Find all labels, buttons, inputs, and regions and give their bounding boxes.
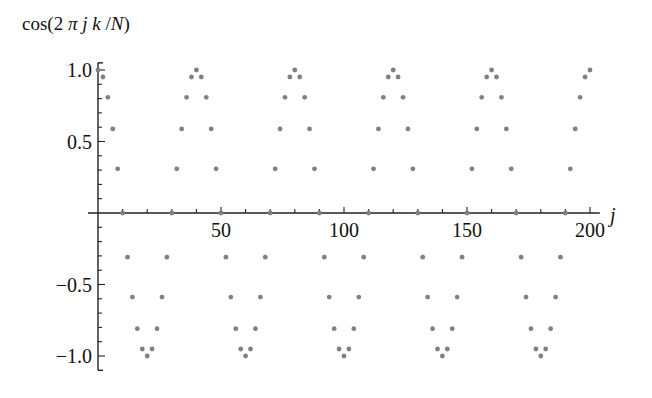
svg-text:150: 150 <box>452 219 482 241</box>
svg-text:−0.5: −0.5 <box>56 274 92 296</box>
svg-text:100: 100 <box>329 219 359 241</box>
axes <box>88 63 600 370</box>
svg-text:1.0: 1.0 <box>67 59 92 81</box>
svg-text:50: 50 <box>211 219 231 241</box>
svg-text:−1.0: −1.0 <box>56 345 92 367</box>
cosine-dot-plot: cos(2 π j k /N) 50100150200−1.0−0.50.51.… <box>0 0 652 398</box>
svg-text:0.5: 0.5 <box>67 131 92 153</box>
y-axis-label: cos(2 π j k /N) <box>22 13 130 35</box>
x-axis-label: j <box>607 204 616 227</box>
svg-text:200: 200 <box>575 219 605 241</box>
